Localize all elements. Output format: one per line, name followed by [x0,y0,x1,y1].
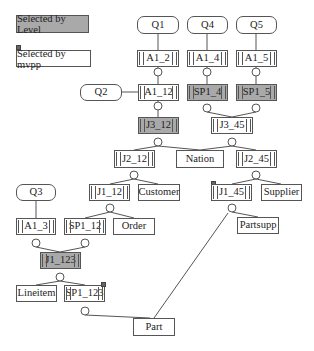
output-port-j3_45 [228,138,236,146]
node-a1_12[interactable]: A1_12 [138,84,179,101]
node-j1_12[interactable]: J1_12 [89,184,130,201]
node-j3_12[interactable]: J3_12 [138,117,179,134]
output-port-sp1_5 [252,104,260,112]
output-port-sp1_12 [81,239,89,247]
table-partsupp[interactable]: Partsupp [237,217,279,234]
output-port-j1_12 [106,204,114,212]
table-nation[interactable]: Nation [176,150,224,168]
node-sp1_4[interactable]: SP1_4 [187,84,228,101]
query-q3[interactable]: Q3 [16,184,56,201]
node-sp1_12[interactable]: SP1_12 [64,218,106,235]
query-q1[interactable]: Q1 [137,16,179,34]
query-q4[interactable]: Q4 [187,16,228,34]
output-port-a1_5 [252,68,260,76]
output-port-j2_12 [130,171,138,179]
node-a1_5[interactable]: A1_5 [236,50,277,67]
node-j3_45[interactable]: J3_45 [211,117,253,134]
table-order[interactable]: Order [113,218,155,235]
node-a1_3[interactable]: A1_3 [16,218,56,235]
output-port-a1_2 [154,68,162,76]
node-j2_12[interactable]: J2_12 [114,150,155,168]
node-j1_123[interactable]: J1_123 [40,252,81,269]
node-j2_45[interactable]: J2_45 [236,150,277,168]
output-port-a1_4 [203,68,211,76]
output-port-sp1_123 [81,307,89,315]
node-a1_4[interactable]: A1_4 [187,50,228,67]
output-port-j1_123 [56,273,64,281]
output-port-j2_45 [252,171,260,179]
node-sp1_5[interactable]: SP1_5 [236,84,277,101]
node-a1_2[interactable]: A1_2 [137,50,179,67]
output-port-j1_45 [228,204,236,212]
query-q5[interactable]: Q5 [236,16,277,34]
output-port-a1_3 [32,239,40,247]
table-supplier[interactable]: Supplier [261,184,302,201]
node-j1_45[interactable]: J1_45 [211,184,252,201]
legend-selected-by-mvpp: Selected by mvpp [16,50,91,67]
query-q2[interactable]: Q2 [80,84,122,101]
table-lineitem[interactable]: Lineitem [16,285,57,302]
output-port-sp1_4 [203,104,211,112]
mvpp-marker-icon [101,282,106,287]
table-customer[interactable]: Customer [138,184,180,201]
output-port-a1_12 [154,102,162,110]
legend-selected-by-level: Selected by Level [16,15,89,33]
table-part[interactable]: Part [133,318,175,336]
output-port-j3_12 [154,138,162,146]
node-sp1_123[interactable]: SP1_123 [64,285,105,302]
